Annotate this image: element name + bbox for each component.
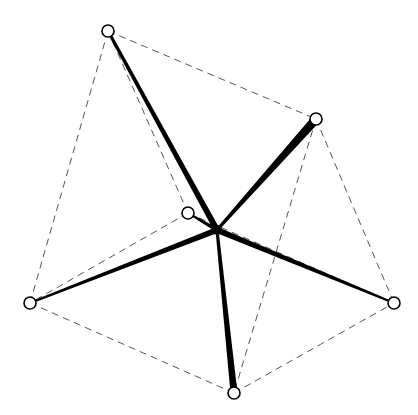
solid-spokes [30,30,395,393]
spoke-right [216,227,395,304]
spoke-upper-right [216,116,319,231]
hub-dot [212,225,222,235]
star-graph [0,0,418,415]
dashed-edge-top-left-left [30,31,108,303]
node-left [24,297,36,309]
dashed-edge-top-left-inner [108,31,188,213]
node-bottom [228,387,240,399]
dashed-edge-bottom-right [234,303,394,393]
node-upper-right [310,113,322,125]
spoke-left [30,227,218,304]
dashed-edge-inner-left [30,213,188,303]
diagram-canvas [0,0,418,415]
hub-node [212,225,222,235]
outer-nodes [24,25,400,399]
dashed-edge-left-bottom [30,303,234,393]
node-top-left [102,25,114,37]
dashed-edge-top-left-upper-right [108,31,316,119]
node-right [388,297,400,309]
dashed-edges [30,31,394,393]
spoke-bottom [216,230,238,394]
node-inner [182,207,194,219]
spoke-top-left [107,30,220,231]
